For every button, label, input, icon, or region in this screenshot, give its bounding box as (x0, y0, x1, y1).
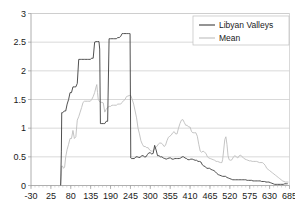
x-axis-label: 685 (282, 191, 295, 201)
x-axis-label: 410 (183, 191, 198, 201)
y-axis-label: 0.5 (13, 152, 26, 162)
legend-label-mean: Mean (219, 33, 241, 43)
x-axis-label: 465 (202, 191, 217, 201)
y-axis-label: 1.5 (13, 95, 26, 105)
y-axis-label: 0 (21, 181, 26, 191)
x-axis-label: 190 (103, 191, 118, 201)
x-axis-label: 355 (163, 191, 178, 201)
x-axis-label: 575 (242, 191, 257, 201)
x-axis-label: 245 (123, 191, 138, 201)
x-axis-label: 630 (262, 191, 277, 201)
x-axis-label: 135 (83, 191, 98, 201)
x-axis-label: 80 (66, 191, 76, 201)
chart-container: 00.511.522.53-30258013519024530035541046… (0, 0, 295, 212)
y-axis-label: 2 (21, 66, 26, 76)
x-axis-label: -30 (24, 191, 37, 201)
x-axis-label: 520 (222, 191, 237, 201)
x-axis-label: 25 (46, 191, 56, 201)
y-axis-label: 1 (21, 123, 26, 133)
y-axis-label: 3 (21, 9, 26, 19)
y-axis-label: 2.5 (13, 37, 26, 47)
legend-label-libyan-valleys: Libyan Valleys (219, 20, 273, 30)
line-chart: 00.511.522.53-30258013519024530035541046… (0, 0, 295, 212)
x-axis-label: 300 (143, 191, 158, 201)
